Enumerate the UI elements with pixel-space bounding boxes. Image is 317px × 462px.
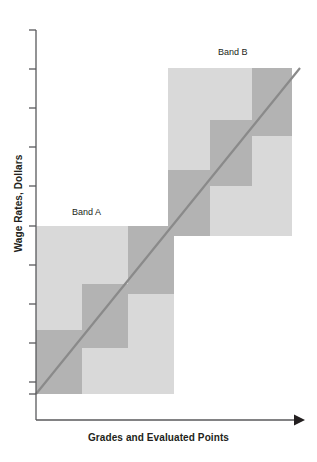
- band-b-group: [168, 68, 292, 236]
- wage-band-chart: Band A Band B Grades and Evaluated Point…: [0, 0, 317, 462]
- y-axis-title: Wage Rates, Dollars: [13, 139, 24, 269]
- band-a-label: Band A: [72, 207, 101, 217]
- x-axis-arrow-icon: [294, 415, 305, 426]
- band-a-step-grade-2: [82, 284, 128, 348]
- chart-plot-area: [0, 0, 317, 462]
- x-axis-title: Grades and Evaluated Points: [0, 432, 317, 443]
- band-b-step-grade-4: [168, 170, 210, 236]
- y-axis-ticks: [29, 30, 36, 394]
- band-a-step-grade-3: [128, 226, 174, 294]
- band-b-label: Band B: [218, 47, 248, 57]
